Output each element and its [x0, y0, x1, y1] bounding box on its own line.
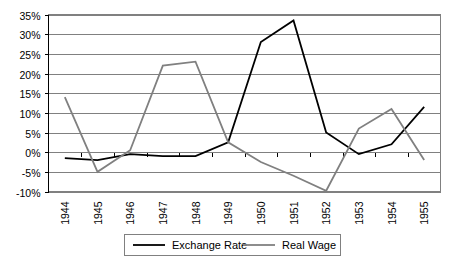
y-axis-tick-label: 15%: [19, 88, 40, 100]
x-axis-tick-label: 1944: [59, 201, 71, 225]
y-axis-tick-label: 0%: [25, 147, 40, 159]
x-axis-tick-label: 1948: [190, 201, 202, 225]
y-axis-tick-label: 30%: [19, 29, 40, 41]
y-axis-tick-label: 5%: [25, 128, 40, 140]
x-axis-tick-label: 1953: [353, 201, 365, 225]
y-axis-tick-label: 10%: [19, 108, 40, 120]
x-axis-tick-label: 1952: [320, 201, 332, 225]
y-axis-tick-label: -5%: [22, 167, 41, 179]
data-series-group: [65, 20, 424, 190]
series-line-real-wage: [65, 62, 424, 191]
x-axis-tick-label: 1949: [222, 201, 234, 225]
line-chart: 35%30%25%20%15%10%5%0%-5%-10% 1944194519…: [0, 0, 461, 260]
chart-canvas: 35%30%25%20%15%10%5%0%-5%-10% 1944194519…: [0, 0, 461, 260]
x-axis-tick-label: 1950: [255, 201, 267, 225]
y-axis-tick-labels: 35%30%25%20%15%10%5%0%-5%-10%: [16, 10, 41, 199]
y-axis-tick-label: -10%: [16, 187, 41, 199]
x-axis-tick-labels: 1944194519461947194819491950195119521953…: [59, 201, 430, 225]
series-line-exchange-rate: [65, 20, 424, 160]
y-axis-tick-label: 25%: [19, 49, 40, 61]
y-axis-tick-label: 35%: [19, 10, 40, 22]
x-axis-tick-label: 1954: [386, 201, 398, 225]
x-axis-tick-label: 1946: [124, 201, 136, 225]
x-axis-tick-label: 1947: [157, 201, 169, 225]
x-axis-tick-label: 1955: [418, 201, 430, 225]
chart-legend: Exchange Rate Real Wage: [125, 235, 341, 256]
x-axis-tick-label: 1951: [288, 201, 300, 225]
x-axis-tick-label: 1945: [92, 201, 104, 225]
legend-label-exchange-rate: Exchange Rate: [172, 239, 247, 251]
y-axis-tick-label: 20%: [19, 69, 40, 81]
legend-label-real-wage: Real Wage: [282, 239, 336, 251]
